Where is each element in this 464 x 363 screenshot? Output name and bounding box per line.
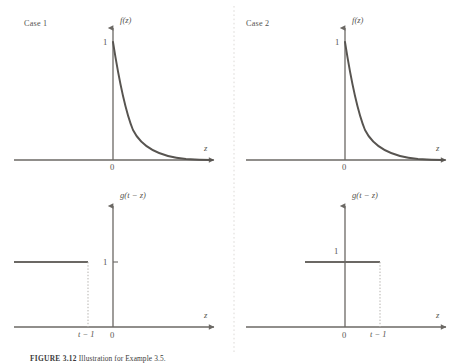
panel-case1-top — [14, 28, 214, 160]
figure-container: Case 1 f(z) 1 0 z Case 2 f(z) 1 0 z g(t … — [0, 0, 464, 363]
x-axis-label-case1-top: z — [204, 144, 207, 153]
figure-caption: FIGURE 3.12 Illustration for Example 3.5… — [30, 354, 166, 363]
y-tick-label-case2-top: 1 — [335, 38, 339, 47]
y-axis-label-case2-top: f(z) — [352, 16, 363, 25]
panel-case1-bottom — [14, 206, 214, 327]
exponential-curve-case1 — [113, 42, 212, 160]
edge-label-case2-bottom: t − 1 — [370, 331, 386, 339]
y-tick-label-case1-bottom: 1 — [103, 258, 107, 267]
panel-case2-top — [246, 28, 446, 160]
y-tick-label-case1-top: 1 — [103, 38, 107, 47]
y-axis-label-case2-bottom: g(t − z) — [352, 191, 378, 200]
figure-caption-label: FIGURE 3.12 — [30, 354, 77, 363]
origin-label-case1-bottom: 0 — [110, 331, 114, 340]
figure-caption-text: Illustration for Example 3.5. — [79, 354, 166, 363]
figure-canvas — [0, 0, 464, 363]
panel-case2-bottom — [246, 206, 446, 327]
x-axis-label-case2-top: z — [436, 144, 439, 153]
case-title-2: Case 2 — [246, 20, 269, 28]
x-axis-label-case1-bottom: z — [204, 311, 207, 320]
case-title-1: Case 1 — [24, 20, 47, 28]
origin-label-case2-bottom: 0 — [342, 331, 346, 340]
y-axis-label-case1-top: f(z) — [120, 16, 131, 25]
y-axis-label-case1-bottom: g(t − z) — [120, 191, 146, 200]
x-axis-label-case2-bottom: z — [436, 311, 439, 320]
exponential-curve-case2 — [345, 42, 444, 160]
origin-label-case2-top: 0 — [342, 163, 346, 172]
edge-label-case1-bottom: t − 1 — [78, 331, 94, 339]
y-tick-label-case2-bottom: 1 — [334, 247, 338, 256]
origin-label-case1-top: 0 — [110, 163, 114, 172]
